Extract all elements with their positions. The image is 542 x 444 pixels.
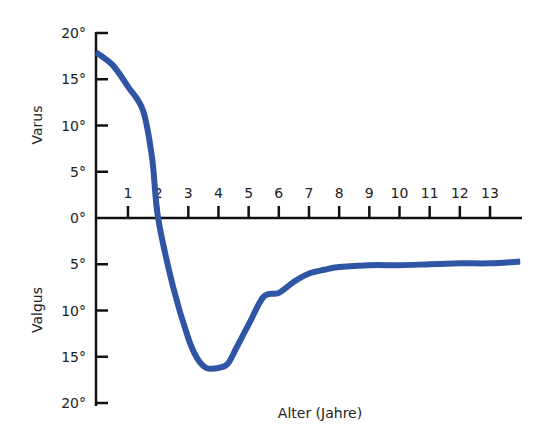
x-tick-label: 13 xyxy=(481,185,499,201)
x-tick-label: 12 xyxy=(451,185,469,201)
y-tick-label: 15° xyxy=(61,349,86,365)
x-ticks: 12345678910111213 xyxy=(124,185,499,218)
y-tick-label: 5° xyxy=(70,256,86,272)
x-tick-label: 7 xyxy=(305,185,314,201)
y-tick-label: 20° xyxy=(61,395,86,411)
x-tick-label: 10 xyxy=(391,185,409,201)
y-axis-title-varus: Varus xyxy=(29,106,45,145)
y-tick-label: 0° xyxy=(70,210,86,226)
x-tick-label: 4 xyxy=(214,185,223,201)
varus-valgus-chart: 20°15°10°5°0°5°10°15°20° 123456789101112… xyxy=(0,0,542,444)
x-tick-label: 11 xyxy=(421,185,439,201)
y-axis-title-valgus: Valgus xyxy=(29,287,45,333)
x-tick-label: 6 xyxy=(274,185,283,201)
y-tick-label: 5° xyxy=(70,164,86,180)
y-tick-label: 10° xyxy=(61,303,86,319)
x-tick-label: 5 xyxy=(244,185,253,201)
y-tick-label: 10° xyxy=(61,118,86,134)
x-tick-label: 3 xyxy=(184,185,193,201)
x-tick-label: 8 xyxy=(335,185,344,201)
x-tick-label: 1 xyxy=(124,185,133,201)
x-axis-title: Alter (Jahre) xyxy=(278,405,362,421)
y-tick-label: 20° xyxy=(61,25,86,41)
x-tick-label: 9 xyxy=(365,185,374,201)
y-tick-label: 15° xyxy=(61,71,86,87)
